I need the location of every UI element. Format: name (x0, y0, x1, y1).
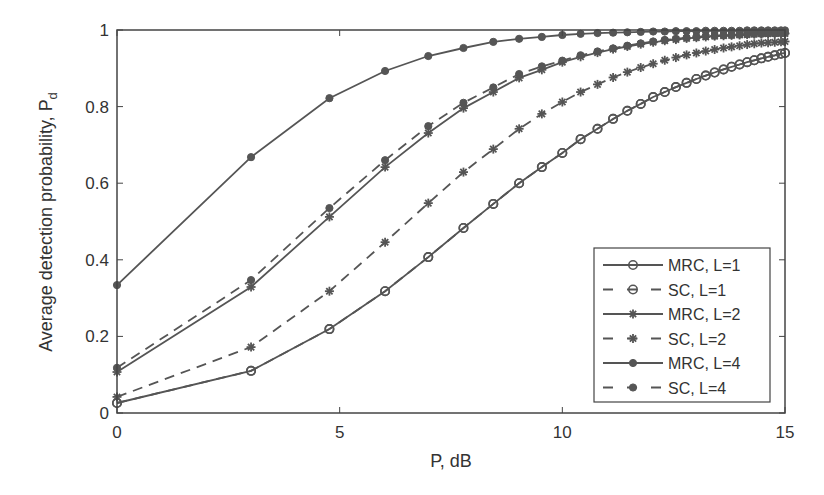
asterisk-marker (671, 53, 680, 62)
dot-marker (672, 28, 679, 35)
y-tick-label: 0.4 (85, 251, 109, 270)
dot-marker (624, 42, 631, 49)
x-tick-label: 5 (335, 423, 344, 442)
dot-marker (460, 44, 467, 51)
dot-marker (764, 30, 771, 37)
asterisk-marker (682, 50, 691, 59)
y-tick-label: 0 (100, 404, 109, 423)
legend-label: MRC, L=4 (668, 355, 741, 372)
dot-marker (490, 38, 497, 45)
dot-marker (758, 30, 765, 37)
dot-marker (247, 154, 254, 161)
dot-marker (751, 30, 758, 37)
dot-marker (693, 33, 700, 40)
legend-label: MRC, L=2 (668, 306, 741, 323)
asterisk-marker (649, 59, 658, 68)
x-tick-label: 0 (112, 423, 121, 442)
asterisk-marker (609, 73, 618, 82)
dot-marker (516, 35, 523, 42)
asterisk-marker (489, 145, 498, 154)
y-tick-label: 0.6 (85, 174, 109, 193)
dot-marker (381, 67, 388, 74)
dot-marker (577, 52, 584, 59)
x-tick-label: 10 (553, 423, 572, 442)
dot-marker (629, 359, 636, 366)
dot-marker (247, 276, 254, 283)
dot-marker (744, 31, 751, 38)
dot-marker (711, 32, 718, 39)
legend-label: SC, L=1 (668, 282, 726, 299)
detection-probability-chart: 051015 00.20.40.60.81 P, dB Average dete… (0, 0, 824, 495)
asterisk-marker (424, 199, 433, 208)
y-tick-label: 0.8 (85, 98, 109, 117)
dot-marker (736, 31, 743, 38)
dot-marker (661, 36, 668, 43)
asterisk-marker (325, 212, 334, 221)
legend-label: SC, L=4 (668, 380, 726, 397)
dot-marker (460, 99, 467, 106)
asterisk-marker (558, 98, 567, 107)
asterisk-marker (247, 343, 256, 352)
legend: MRC, L=1SC, L=1MRC, L=2SC, L=2MRC, L=4SC… (594, 248, 770, 402)
dot-marker (326, 204, 333, 211)
dot-marker (559, 57, 566, 64)
asterisk-marker (576, 88, 585, 97)
dot-marker (650, 38, 657, 45)
asterisk-marker (660, 56, 669, 65)
y-axis-label: Average detection probability, Pd (36, 92, 60, 352)
asterisk-marker (735, 41, 744, 50)
series-line (117, 30, 785, 285)
dot-marker (577, 30, 584, 37)
asterisk-marker (701, 47, 710, 56)
dot-marker (720, 32, 727, 39)
dot-marker (637, 40, 644, 47)
asterisk-marker (623, 68, 632, 77)
asterisk-marker (727, 42, 736, 51)
dot-marker (538, 33, 545, 40)
y-tick-label: 1 (100, 21, 109, 40)
dot-marker (728, 31, 735, 38)
dot-marker (594, 48, 601, 55)
dot-marker (672, 35, 679, 42)
legend-label: SC, L=2 (668, 331, 726, 348)
dot-marker (425, 123, 432, 130)
asterisk-marker (629, 310, 638, 319)
asterisk-marker (537, 109, 546, 118)
dot-marker (650, 28, 657, 35)
dot-marker (516, 70, 523, 77)
dot-marker (610, 45, 617, 52)
asterisk-marker (325, 287, 334, 296)
asterisk-marker (719, 44, 728, 53)
asterisk-marker (593, 80, 602, 89)
x-tick-label: 15 (776, 423, 795, 442)
asterisk-marker (629, 334, 638, 343)
dot-marker (629, 384, 636, 391)
asterisk-marker (710, 45, 719, 54)
dot-marker (326, 95, 333, 102)
asterisk-marker (459, 168, 468, 177)
asterisk-marker (381, 238, 390, 247)
y-tick-label: 0.2 (85, 327, 109, 346)
dot-marker (661, 28, 668, 35)
dot-marker (683, 34, 690, 41)
legend-label: MRC, L=1 (668, 257, 741, 274)
x-axis-label: P, dB (430, 451, 472, 471)
dot-marker (538, 63, 545, 70)
asterisk-marker (636, 63, 645, 72)
asterisk-marker (692, 48, 701, 57)
dot-marker (381, 157, 388, 164)
dot-marker (425, 52, 432, 59)
dot-marker (702, 33, 709, 40)
dot-marker (490, 84, 497, 91)
y-axis-label-subscript: d (45, 92, 60, 99)
